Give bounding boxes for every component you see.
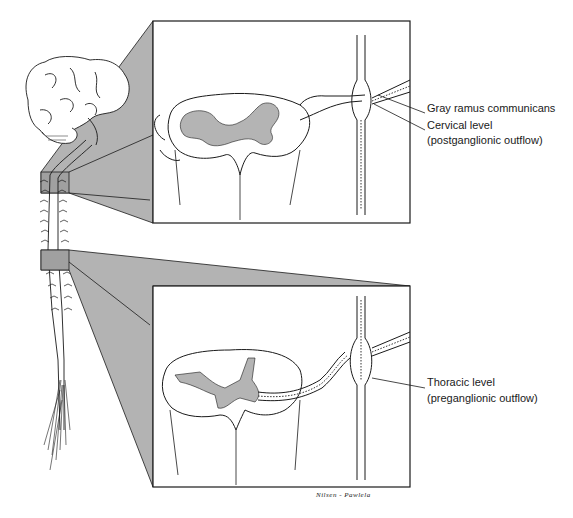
thoracic-panel (153, 286, 410, 487)
thoracic-level-label: Thoracic level (427, 375, 495, 389)
cervical-level-label: Cervical level (427, 118, 492, 132)
preganglionic-outflow-label: (preganglionic outflow) (427, 391, 538, 405)
gray-ramus-label: Gray ramus communicans (427, 101, 555, 115)
cervical-panel (153, 21, 410, 223)
anatomical-illustration (0, 0, 573, 518)
postganglionic-outflow-label: (postganglionic outflow) (427, 133, 543, 147)
artist-signature: Nilsen - Pawlela (316, 491, 371, 499)
